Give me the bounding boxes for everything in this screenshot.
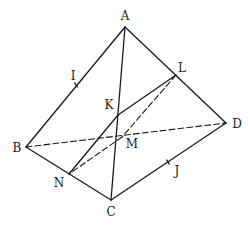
label-D: D [232, 117, 242, 131]
label-C: C [106, 205, 115, 219]
tetrahedron-diagram: A B C D I J K L M N [0, 0, 248, 230]
label-B: B [13, 141, 22, 155]
edge-AB [26, 27, 125, 147]
label-A: A [120, 9, 130, 23]
edge-KL [118, 75, 176, 115]
point-labels: A B C D I J K L M N [13, 9, 242, 219]
label-M: M [126, 137, 138, 151]
edge-BC [26, 147, 111, 200]
edge-AC [111, 27, 125, 200]
label-J: J [173, 164, 180, 178]
dashed-edges [26, 75, 226, 174]
label-N: N [54, 176, 65, 190]
diagram-svg: A B C D I J K L M N [0, 0, 248, 230]
label-L: L [178, 61, 186, 75]
tick-marks [75, 83, 170, 165]
label-I: I [71, 69, 76, 83]
label-K: K [105, 98, 115, 112]
solid-edges [26, 27, 226, 200]
